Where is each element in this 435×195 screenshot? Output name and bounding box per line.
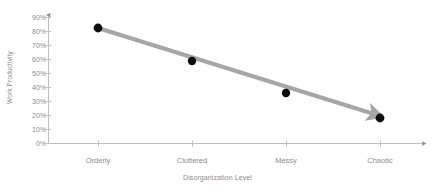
chart-container: Work Productivity 90% 80% 70% 60% 50% 40… xyxy=(0,0,435,195)
data-point-messy xyxy=(282,89,290,97)
data-point-cluttered xyxy=(188,57,196,65)
x-tick-label-orderly: Orderly xyxy=(86,156,111,165)
x-tick-label-cluttered: Cluttered xyxy=(177,156,207,165)
plot-area xyxy=(0,0,435,195)
data-point-orderly xyxy=(94,24,103,33)
x-tick-label-messy: Messy xyxy=(275,156,297,165)
trend-line-arrow xyxy=(98,28,374,114)
x-tick-label-chaotic: Chaotic xyxy=(367,156,392,165)
data-point-chaotic xyxy=(376,114,385,123)
x-axis-title: Disorganization Level xyxy=(0,174,435,181)
